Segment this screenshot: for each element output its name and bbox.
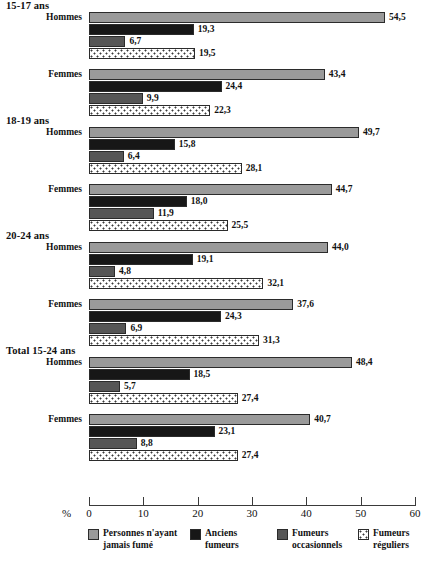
bar-value-label: 5,7 [124,380,136,392]
subgroup-label-femmes: Femmes [0,299,82,309]
subgroup-block: Femmes40,723,18,827,4 [0,414,427,462]
bar-value-label: 49,7 [363,126,380,138]
subgroup-block: Femmes44,718,011,925,5 [0,184,427,232]
bar-3 [89,266,115,277]
legend-label: Anciens fumeurs [205,528,239,551]
bar-1 [89,357,352,368]
smoking-status-bar-chart: % 0102030405060 Personnes n'ayant jamais… [0,0,427,561]
subgroup-block: Femmes43,424,49,922,3 [0,69,427,117]
subgroup-label-hommes: Hommes [0,357,82,367]
bar-value-label: 19,1 [197,253,214,265]
bar-value-label: 31,3 [263,334,280,346]
bar-value-label: 27,4 [242,449,259,461]
subgroup-label-hommes: Hommes [0,12,82,22]
x-axis-tick-label: 60 [410,507,421,519]
bar-2 [89,254,193,265]
bar-value-label: 28,1 [246,162,263,174]
bar-1 [89,127,359,138]
x-axis-tick [89,497,90,506]
x-axis-tick-label: 40 [301,507,312,519]
subgroup-label-hommes: Hommes [0,242,82,252]
bar-3 [89,151,124,162]
bar-1 [89,12,385,23]
bar-row: 8,8 [89,438,427,449]
x-axis-tick [143,497,144,506]
group-label-1: 15-17 ans [6,0,49,11]
x-axis-tick [252,497,253,506]
bar-value-label: 44,0 [332,241,349,253]
subgroup-label-hommes: Hommes [0,127,82,137]
bar-row: 18,0 [89,196,427,207]
bar-value-label: 18,5 [194,368,211,380]
bar-value-label: 40,7 [314,413,331,425]
bar-row: 18,5 [89,369,427,380]
legend-label: Fumeurs occasionnels [292,528,342,551]
bar-2 [89,139,175,150]
bar-row: 22,3 [89,105,427,116]
bar-value-label: 23,1 [219,425,236,437]
bar-row: 44,7 [89,184,427,195]
bar-2 [89,369,190,380]
subgroup-block: Hommes49,715,86,428,1 [0,127,427,175]
bar-2 [89,24,194,35]
subgroup-block: Hommes48,418,55,727,4 [0,357,427,405]
bar-row: 25,5 [89,220,427,231]
bar-row: 6,9 [89,323,427,334]
bar-stack: 54,519,36,719,5 [89,12,427,60]
bar-value-label: 11,9 [158,207,174,219]
bar-4 [89,163,242,174]
bar-value-label: 8,8 [141,437,153,449]
bar-row: 6,7 [89,36,427,47]
subgroup-label-femmes: Femmes [0,184,82,194]
x-axis-tick-label: 20 [192,507,203,519]
bar-value-label: 18,0 [191,195,208,207]
bar-row: 27,4 [89,393,427,404]
bar-row: 31,3 [89,335,427,346]
bar-row: 19,5 [89,48,427,59]
bar-value-label: 27,4 [242,392,259,404]
subgroup-label-femmes: Femmes [0,414,82,424]
legend-item-3[interactable]: Fumeurs occasionnels [277,528,342,551]
chart-legend: Personnes n'ayant jamais fuméAnciens fum… [0,528,427,561]
x-axis: % 0102030405060 [0,497,427,523]
group-label-2: 18-19 ans [6,115,49,126]
bar-4 [89,393,238,404]
bar-row: 44,0 [89,242,427,253]
bar-value-label: 15,8 [179,138,196,150]
legend-item-4[interactable]: Fumeurs réguliers [358,528,409,551]
x-axis-tick [415,497,416,506]
bar-1 [89,414,310,425]
legend-item-2[interactable]: Anciens fumeurs [190,528,239,551]
subgroup-block: Hommes54,519,36,719,5 [0,12,427,60]
bar-row: 19,3 [89,24,427,35]
bar-row: 15,8 [89,139,427,150]
bar-stack: 44,019,14,832,1 [89,242,427,290]
bar-value-label: 9,9 [147,92,159,104]
bar-value-label: 24,3 [225,310,242,322]
bar-row: 4,8 [89,266,427,277]
bar-value-label: 54,5 [389,11,406,23]
bar-3 [89,381,120,392]
bar-stack: 44,718,011,925,5 [89,184,427,232]
bar-3 [89,323,126,334]
legend-swatch-icon [88,529,99,540]
bar-value-label: 44,7 [336,183,353,195]
bar-row: 48,4 [89,357,427,368]
legend-swatch-icon [277,529,288,540]
x-axis-tick [306,497,307,506]
subgroup-block: Femmes37,624,36,931,3 [0,299,427,347]
bar-row: 40,7 [89,414,427,425]
bar-4 [89,48,195,59]
bar-4 [89,220,228,231]
bar-2 [89,196,187,207]
legend-item-1[interactable]: Personnes n'ayant jamais fumé [88,528,177,551]
bar-row: 54,5 [89,12,427,23]
bar-3 [89,208,154,219]
group-label-3: 20-24 ans [6,230,49,241]
bar-row: 24,4 [89,81,427,92]
bar-value-label: 43,4 [329,68,346,80]
bar-2 [89,426,215,437]
x-axis-tick [198,497,199,506]
bar-value-label: 6,9 [130,322,142,334]
bar-row: 9,9 [89,93,427,104]
